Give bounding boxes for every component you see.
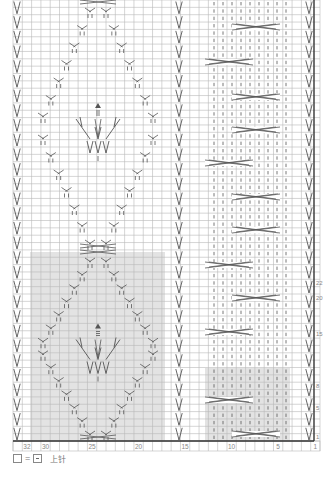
legend-purl-label: 上针 — [50, 453, 66, 464]
knitting-chart: 32302520151051222015851 — [0, 0, 329, 491]
twist-stitch-icon — [117, 43, 127, 47]
column-label: 5 — [276, 443, 280, 450]
legend: = 上针 — [13, 452, 66, 464]
column-label: 32 — [23, 443, 31, 450]
twist-stitch-icon — [125, 61, 135, 65]
row-label: 22 — [316, 280, 323, 286]
blank-square-icon — [13, 454, 22, 463]
purl-symbol-icon — [33, 454, 42, 463]
twist-stitch-icon — [38, 135, 48, 139]
row-label: 15 — [316, 331, 323, 337]
column-label: 10 — [228, 443, 236, 450]
column-label: 1 — [314, 443, 318, 450]
row-label: 20 — [316, 295, 323, 301]
row-label: 1 — [316, 434, 320, 440]
twist-stitch-icon — [109, 223, 119, 227]
twist-stitch-icon — [46, 96, 56, 100]
row-label: 8 — [316, 383, 320, 389]
twist-stitch-icon — [54, 78, 64, 82]
twist-stitch-icon — [62, 61, 72, 65]
twist-stitch-icon — [77, 26, 87, 30]
column-label: 15 — [181, 443, 189, 450]
twist-stitch-icon — [38, 113, 48, 117]
twist-stitch-icon — [85, 8, 95, 12]
legend-equals: = — [25, 453, 30, 463]
row-label: 5 — [316, 405, 320, 411]
twist-stitch-icon — [148, 135, 158, 139]
twist-stitch-icon — [54, 170, 64, 174]
column-label: 20 — [135, 443, 143, 450]
twist-stitch-icon — [77, 223, 87, 227]
column-label: 25 — [88, 443, 96, 450]
twist-stitch-icon — [85, 240, 95, 244]
twist-stitch-icon — [109, 26, 119, 30]
bobble-icon — [95, 103, 101, 108]
column-label: 30 — [42, 443, 50, 450]
twist-stitch-icon — [140, 96, 150, 100]
twist-stitch-icon — [148, 113, 158, 117]
